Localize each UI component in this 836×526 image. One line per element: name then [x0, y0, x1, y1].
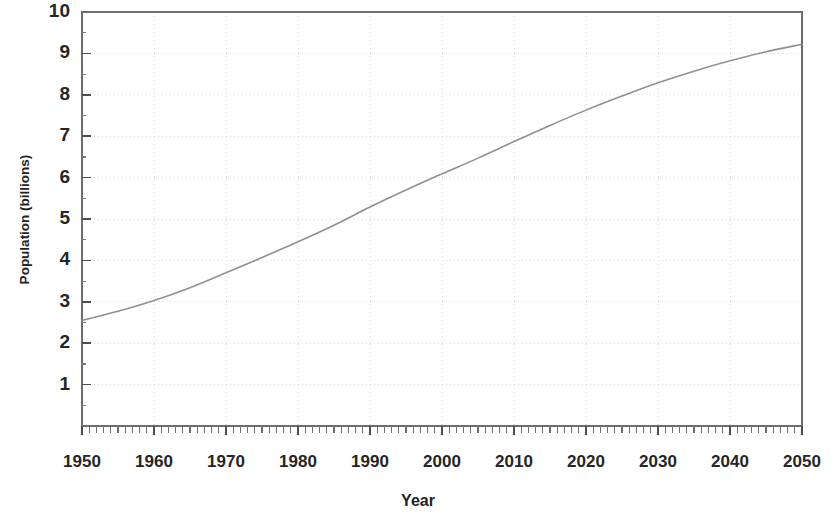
x-axis-title: Year	[0, 492, 836, 510]
y-tick-label: 1	[30, 373, 70, 395]
chart-figure: Population (billions) Year 12345678910 1…	[0, 0, 836, 526]
y-tick-label: 4	[30, 248, 70, 270]
x-tick-label: 1990	[335, 452, 405, 472]
chart-plot-svg	[0, 0, 836, 526]
x-tick-label: 2000	[407, 452, 477, 472]
x-tick-label: 2050	[767, 452, 836, 472]
x-tick-label: 1950	[47, 452, 117, 472]
x-tick-label: 1960	[119, 452, 189, 472]
y-tick-label: 7	[30, 124, 70, 146]
gridlines-group	[82, 12, 802, 426]
x-axis-ticks	[82, 426, 802, 435]
data-series-layer	[82, 44, 802, 320]
x-tick-label: 2030	[623, 452, 693, 472]
y-tick-label: 10	[30, 0, 70, 22]
x-tick-label: 2040	[695, 452, 765, 472]
y-tick-label: 6	[30, 166, 70, 188]
y-tick-label: 2	[30, 331, 70, 353]
x-tick-label: 2020	[551, 452, 621, 472]
y-tick-label: 5	[30, 207, 70, 229]
x-tick-label: 1970	[191, 452, 261, 472]
x-tick-label: 1980	[263, 452, 333, 472]
y-tick-label: 8	[30, 83, 70, 105]
x-tick-label: 2010	[479, 452, 549, 472]
y-tick-label: 9	[30, 41, 70, 63]
y-axis-ticks	[82, 33, 91, 406]
y-tick-label: 3	[30, 290, 70, 312]
